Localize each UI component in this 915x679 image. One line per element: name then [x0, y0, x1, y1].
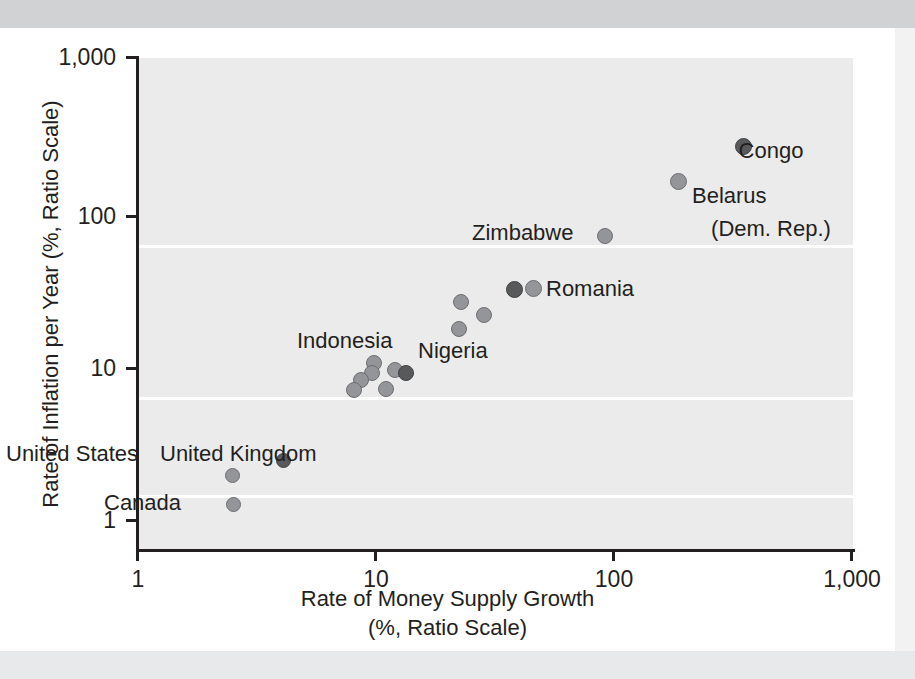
data-point-mid-a[interactable]	[453, 294, 469, 310]
label-congo-line1: Congo	[686, 138, 856, 164]
y-tick-10	[126, 367, 138, 370]
page-right-band	[895, 28, 915, 651]
label-zimbabwe: Zimbabwe	[472, 220, 573, 246]
label-romania: Romania	[546, 276, 634, 302]
label-nigeria: Nigeria	[418, 338, 488, 364]
gridline-10	[138, 397, 853, 400]
x-tick-10	[374, 549, 377, 561]
data-point-zimbabwe[interactable]	[597, 228, 613, 244]
gridline-minor	[138, 495, 853, 498]
x-axis-line	[136, 549, 855, 552]
page-canvas: 1,000 100 10 1 1 10 100 1,000 Rate of Mo…	[0, 0, 915, 679]
x-tick-1	[136, 549, 139, 561]
data-point-cluster-d[interactable]	[398, 365, 414, 381]
label-canada: Canada	[104, 490, 181, 516]
data-point-romania-dark[interactable]	[506, 281, 523, 298]
data-point-nigeria[interactable]	[451, 321, 467, 337]
data-point-belarus[interactable]	[670, 173, 687, 190]
y-axis-line	[136, 56, 139, 552]
data-point-cluster-e[interactable]	[346, 382, 362, 398]
data-point-united-states[interactable]	[225, 468, 240, 483]
page-top-band	[0, 0, 915, 28]
label-united-states: United States	[6, 441, 138, 467]
y-tick-100	[126, 215, 138, 218]
label-belarus: Belarus	[692, 183, 767, 209]
y-tick-1000	[126, 56, 138, 59]
data-point-mid-b[interactable]	[476, 307, 492, 323]
x-tick-1000	[850, 549, 853, 561]
scatter-chart-figure: 1,000 100 10 1 1 10 100 1,000 Rate of Mo…	[0, 28, 895, 651]
y-tick-1	[126, 519, 138, 522]
y-tick-label-1000: 1,000	[0, 46, 116, 69]
label-indonesia: Indonesia	[297, 328, 392, 354]
x-axis-title-line2: (%, Ratio Scale)	[0, 613, 895, 642]
x-tick-100	[612, 549, 615, 561]
label-congo-line2: (Dem. Rep.)	[686, 216, 856, 242]
y-axis-title: Rate of Inflation per Year (%, Ratio Sca…	[40, 69, 62, 539]
data-point-romania-light[interactable]	[525, 280, 542, 297]
data-point-canada[interactable]	[226, 497, 241, 512]
label-united-kingdom: United Kingdom	[160, 441, 317, 467]
page-bottom-band	[0, 651, 915, 679]
x-axis-title: Rate of Money Supply Growth (%, Ratio Sc…	[0, 584, 895, 642]
x-axis-title-line1: Rate of Money Supply Growth	[0, 584, 895, 613]
data-point-cluster-f[interactable]	[378, 381, 394, 397]
